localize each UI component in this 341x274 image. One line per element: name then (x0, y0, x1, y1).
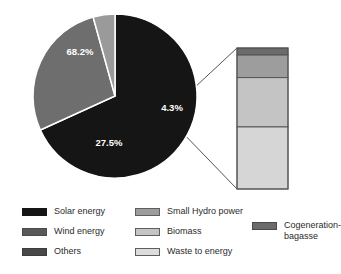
chart-svg: 68.2% 27.5% 4.3% (0, 0, 341, 200)
legend-item-biomass[interactable]: Biomass (135, 226, 253, 239)
pie-chart-figure: 68.2% 27.5% 4.3% Solar energy (0, 0, 341, 274)
bar-segment-waste-to-energy[interactable] (237, 127, 288, 189)
pie-label-solar-energy: 68.2% (67, 46, 94, 57)
legend-label-cogeneration-bagasse: Cogeneration- bagasse (284, 220, 341, 242)
connector-line-bottom (178, 128, 237, 189)
legend-label-waste-to-energy: Waste to energy (167, 246, 232, 257)
legend: Solar energy Wind energy Others Small Hy… (0, 206, 341, 274)
chart-plot-area: 68.2% 27.5% 4.3% (0, 0, 341, 200)
legend-label-wind-energy: Wind energy (54, 226, 105, 237)
legend-label-others: Others (54, 246, 81, 257)
bar-segment-cogeneration-bagasse[interactable] (237, 48, 288, 55)
legend-item-small-hydro-power[interactable]: Small Hydro power (135, 206, 253, 219)
legend-label-solar-energy: Solar energy (54, 206, 105, 217)
legend-swatch-cogeneration-bagasse (252, 222, 277, 230)
legend-item-waste-to-energy[interactable]: Waste to energy (135, 246, 253, 259)
pie-label-others: 4.3% (161, 102, 183, 113)
bar-segment-small-hydro-power[interactable] (237, 55, 288, 78)
legend-swatch-waste-to-energy (135, 248, 160, 256)
legend-item-solar-energy[interactable]: Solar energy (22, 206, 134, 219)
bar-segment-biomass[interactable] (237, 78, 288, 127)
legend-item-cogeneration-bagasse[interactable]: Cogeneration- bagasse (252, 220, 341, 246)
legend-column-2: Small Hydro power Biomass Waste to energ… (135, 206, 253, 266)
legend-item-wind-energy[interactable]: Wind energy (22, 226, 134, 239)
legend-swatch-biomass (135, 228, 160, 236)
legend-swatch-others (22, 248, 47, 256)
legend-item-others[interactable]: Others (22, 246, 134, 259)
legend-column-1: Solar energy Wind energy Others (22, 206, 134, 266)
legend-swatch-small-hydro-power (135, 208, 160, 216)
breakout-stacked-bar (237, 48, 288, 189)
legend-swatch-wind-energy (22, 228, 47, 236)
legend-label-small-hydro-power: Small Hydro power (167, 206, 243, 217)
legend-swatch-solar-energy (22, 208, 47, 216)
pie-label-wind-energy: 27.5% (96, 137, 123, 148)
pie: 68.2% 27.5% 4.3% (33, 14, 197, 178)
legend-column-3: Cogeneration- bagasse (252, 206, 341, 253)
legend-label-biomass: Biomass (167, 226, 202, 237)
